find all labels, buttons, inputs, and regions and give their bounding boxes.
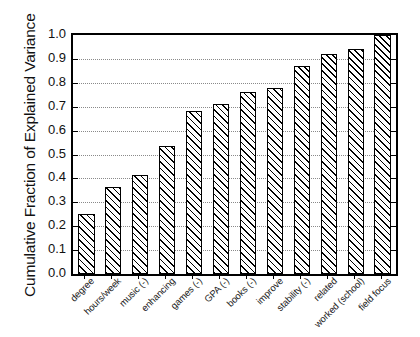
bar xyxy=(213,104,229,274)
y-tick-label: 0.4 xyxy=(30,170,66,183)
plot-inner xyxy=(73,35,396,274)
bar xyxy=(321,54,337,274)
x-axis-tick-labels: degreehours/weekmusic (-)enhancinggames … xyxy=(0,276,420,337)
bar xyxy=(294,66,310,274)
y-tick-label: 0.9 xyxy=(30,50,66,63)
y-axis-tick-labels: 0.00.10.20.30.40.50.60.70.80.91.0 xyxy=(30,33,66,272)
plot-area xyxy=(71,33,398,276)
bar xyxy=(267,88,283,274)
y-tick-label: 1.0 xyxy=(30,27,66,40)
bar xyxy=(78,214,94,274)
y-tick-label: 0.7 xyxy=(30,98,66,111)
bar-chart-figure: Cumulative Fraction of Explained Varianc… xyxy=(0,0,420,337)
bar xyxy=(159,146,175,274)
y-tick-label: 0.3 xyxy=(30,194,66,207)
bar xyxy=(132,175,148,274)
bar-series xyxy=(73,35,396,274)
bar xyxy=(374,35,390,274)
bar xyxy=(186,111,202,274)
y-tick-label: 0.2 xyxy=(30,218,66,231)
y-tick-label: 0.8 xyxy=(30,74,66,87)
y-tick-label: 0.5 xyxy=(30,146,66,159)
y-tick-label: 0.1 xyxy=(30,242,66,255)
x-tick-label: books (-) xyxy=(225,276,258,309)
bar xyxy=(240,92,256,274)
y-tick-label: 0.6 xyxy=(30,122,66,135)
bar xyxy=(348,49,364,274)
bar xyxy=(105,187,121,274)
